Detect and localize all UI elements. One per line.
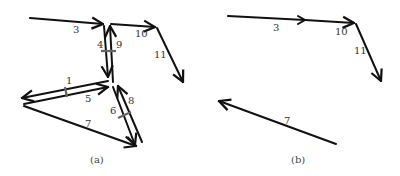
diagram-canvas: 3 4 9 10 11 1 5 6 8 7 (a) 3 10 11 7 (b)	[0, 0, 400, 176]
edge-3-b	[228, 16, 305, 20]
edge-3	[30, 18, 103, 24]
edge-7	[24, 106, 136, 146]
edge-label-8: 8	[128, 95, 134, 106]
edge-9	[110, 26, 113, 82]
caption-b: (b)	[291, 154, 305, 165]
edge-7-b	[219, 101, 336, 144]
edge-label-11-b: 11	[354, 45, 367, 56]
edge-label-6: 6	[110, 105, 116, 116]
edge-label-4: 4	[97, 39, 103, 50]
edge-label-9: 9	[116, 39, 122, 50]
edge-label-10-b: 10	[335, 26, 348, 37]
edge-10	[111, 24, 155, 27]
edge-label-5: 5	[85, 93, 91, 104]
edge-10-b	[305, 20, 354, 23]
edge-label-10: 10	[135, 28, 148, 39]
caption-a: (a)	[90, 154, 104, 165]
edge-label-3: 3	[73, 24, 79, 35]
panel-a: 3 4 9 10 11 1 5 6 8 7 (a)	[22, 18, 183, 165]
edge-label-3-b: 3	[273, 22, 279, 33]
edge-label-1: 1	[66, 75, 72, 86]
panel-b: 3 10 11 7 (b)	[219, 16, 381, 165]
edge-label-11: 11	[154, 49, 167, 60]
edge-label-7-b: 7	[284, 115, 290, 126]
edge-label-7: 7	[85, 118, 91, 129]
